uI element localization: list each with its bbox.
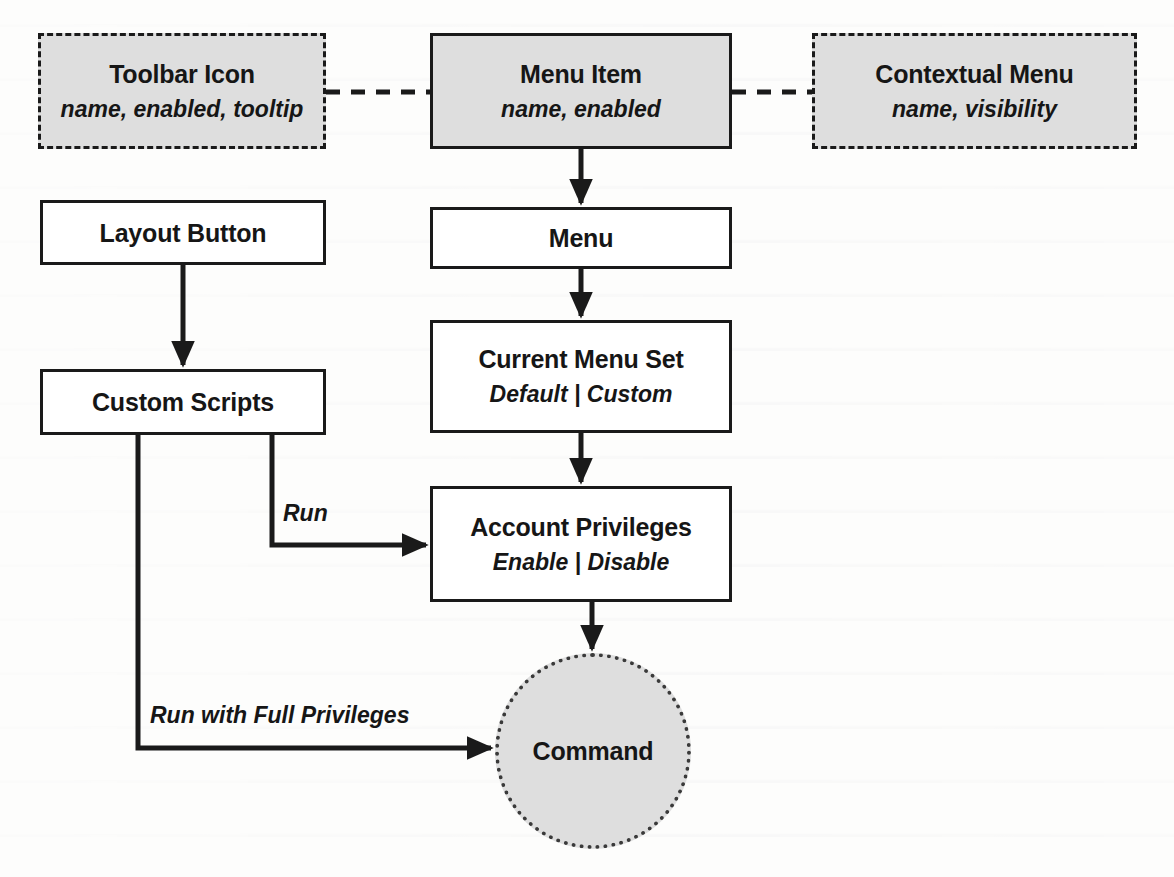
- node-layout-button-title: Layout Button: [100, 219, 267, 247]
- node-menu[interactable]: Menu: [430, 207, 732, 269]
- node-custom-scripts-title: Custom Scripts: [92, 388, 274, 416]
- node-command[interactable]: Command: [495, 653, 691, 849]
- node-toolbar-icon[interactable]: Toolbar Icon name, enabled, tooltip: [38, 33, 326, 149]
- node-toolbar-icon-attributes: name, enabled, tooltip: [61, 97, 304, 123]
- node-contextual-menu[interactable]: Contextual Menu name, visibility: [812, 33, 1137, 149]
- edge-label-run: Run: [283, 500, 328, 527]
- node-layout-button[interactable]: Layout Button: [40, 200, 326, 265]
- node-toolbar-icon-title: Toolbar Icon: [109, 60, 255, 88]
- node-command-title: Command: [533, 737, 654, 765]
- node-account-privileges-options: Enable | Disable: [493, 550, 669, 576]
- diagram-canvas: Toolbar Icon name, enabled, tooltip Menu…: [0, 0, 1174, 877]
- edge-custom-scripts-to-account-privileges: [272, 435, 426, 545]
- node-menu-item-attributes: name, enabled: [501, 97, 661, 123]
- node-menu-item-title: Menu Item: [520, 60, 642, 88]
- edge-label-run-with-full-privileges: Run with Full Privileges: [150, 702, 409, 729]
- node-custom-scripts[interactable]: Custom Scripts: [40, 369, 326, 435]
- node-menu-title: Menu: [549, 224, 613, 252]
- node-current-menu-set[interactable]: Current Menu Set Default | Custom: [430, 320, 732, 433]
- node-current-menu-set-title: Current Menu Set: [478, 345, 683, 373]
- node-contextual-menu-title: Contextual Menu: [875, 60, 1073, 88]
- node-account-privileges[interactable]: Account Privileges Enable | Disable: [430, 486, 732, 602]
- node-current-menu-set-options: Default | Custom: [490, 382, 673, 408]
- node-menu-item[interactable]: Menu Item name, enabled: [430, 33, 732, 149]
- node-contextual-menu-attributes: name, visibility: [892, 97, 1057, 123]
- node-account-privileges-title: Account Privileges: [470, 513, 691, 541]
